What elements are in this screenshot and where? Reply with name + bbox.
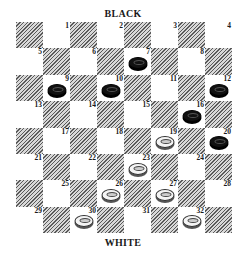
square-30[interactable]: 30: [70, 207, 97, 233]
square-9[interactable]: 9: [43, 75, 70, 101]
square-24[interactable]: 24: [178, 154, 205, 180]
square-number: 30: [89, 207, 97, 215]
square-number: 23: [143, 154, 151, 162]
square-27[interactable]: 27: [151, 180, 178, 206]
square-15[interactable]: 15: [124, 101, 151, 127]
square-10[interactable]: 10: [97, 75, 124, 101]
square-23[interactable]: 23: [124, 154, 151, 180]
hatched-square: [16, 75, 43, 101]
square-number: 9: [65, 75, 69, 83]
hatched-square: [43, 207, 70, 233]
hatched-square: [16, 180, 43, 206]
square-number: 18: [116, 128, 124, 136]
square-12[interactable]: 12: [205, 75, 232, 101]
hatched-square: [97, 207, 124, 233]
square-number: 14: [89, 101, 97, 109]
square-7[interactable]: 7: [124, 48, 151, 74]
square-number: 1: [65, 22, 69, 30]
square-21[interactable]: 21: [16, 154, 43, 180]
square-number: 8: [200, 48, 204, 56]
square-number: 17: [62, 128, 70, 136]
square-32[interactable]: 32: [178, 207, 205, 233]
hatched-square: [178, 128, 205, 154]
hatched-square: [43, 154, 70, 180]
square-25[interactable]: 25: [43, 180, 70, 206]
hatched-square: [151, 48, 178, 74]
hatched-square: [70, 75, 97, 101]
square-14[interactable]: 14: [70, 101, 97, 127]
square-6[interactable]: 6: [70, 48, 97, 74]
square-number: 6: [92, 48, 96, 56]
black-checker-piece[interactable]: [182, 110, 201, 122]
square-11[interactable]: 11: [151, 75, 178, 101]
square-number: 5: [38, 48, 42, 56]
hatched-square: [124, 180, 151, 206]
square-number: 16: [197, 101, 205, 109]
black-checker-piece[interactable]: [128, 57, 147, 69]
square-31[interactable]: 31: [124, 207, 151, 233]
square-5[interactable]: 5: [16, 48, 43, 74]
square-19[interactable]: 19: [151, 128, 178, 154]
white-checker-piece[interactable]: [155, 136, 174, 148]
hatched-square: [97, 101, 124, 127]
hatched-square: [205, 101, 232, 127]
hatched-square: [70, 128, 97, 154]
hatched-square: [124, 128, 151, 154]
hatched-square: [124, 75, 151, 101]
black-checker-piece[interactable]: [47, 84, 66, 96]
hatched-square: [16, 128, 43, 154]
square-number: 20: [224, 128, 232, 136]
hatched-square: [70, 22, 97, 48]
checkerboard: 1234567891011121314151617181920212223242…: [16, 22, 232, 233]
hatched-square: [43, 48, 70, 74]
hatched-square: [43, 101, 70, 127]
hatched-square: [178, 22, 205, 48]
square-16[interactable]: 16: [178, 101, 205, 127]
square-8[interactable]: 8: [178, 48, 205, 74]
black-checker-piece[interactable]: [209, 136, 228, 148]
square-3[interactable]: 3: [151, 22, 178, 48]
square-2[interactable]: 2: [97, 22, 124, 48]
square-4[interactable]: 4: [205, 22, 232, 48]
square-18[interactable]: 18: [97, 128, 124, 154]
square-number: 21: [35, 154, 43, 162]
hatched-square: [70, 180, 97, 206]
hatched-square: [97, 48, 124, 74]
square-number: 11: [170, 75, 177, 83]
hatched-square: [178, 75, 205, 101]
hatched-square: [205, 207, 232, 233]
hatched-square: [205, 48, 232, 74]
white-checker-piece[interactable]: [128, 163, 147, 175]
square-29[interactable]: 29: [16, 207, 43, 233]
square-number: 15: [143, 101, 151, 109]
square-28[interactable]: 28: [205, 180, 232, 206]
square-number: 19: [170, 128, 178, 136]
hatched-square: [124, 22, 151, 48]
black-checker-piece[interactable]: [209, 84, 228, 96]
square-number: 31: [143, 207, 151, 215]
square-number: 28: [224, 180, 232, 188]
square-26[interactable]: 26: [97, 180, 124, 206]
white-checker-piece[interactable]: [74, 215, 93, 227]
square-number: 12: [224, 75, 232, 83]
square-17[interactable]: 17: [43, 128, 70, 154]
square-number: 2: [119, 22, 123, 30]
square-1[interactable]: 1: [43, 22, 70, 48]
square-number: 4: [227, 22, 231, 30]
white-side-label: WHITE: [0, 237, 246, 248]
square-number: 24: [197, 154, 205, 162]
hatched-square: [97, 154, 124, 180]
square-22[interactable]: 22: [70, 154, 97, 180]
black-checker-piece[interactable]: [101, 84, 120, 96]
hatched-square: [178, 180, 205, 206]
white-checker-piece[interactable]: [101, 189, 120, 201]
square-number: 29: [35, 207, 43, 215]
square-number: 3: [173, 22, 177, 30]
white-checker-piece[interactable]: [182, 215, 201, 227]
square-number: 27: [170, 180, 178, 188]
square-number: 13: [35, 101, 43, 109]
square-number: 32: [197, 207, 205, 215]
white-checker-piece[interactable]: [155, 189, 174, 201]
square-13[interactable]: 13: [16, 101, 43, 127]
square-20[interactable]: 20: [205, 128, 232, 154]
